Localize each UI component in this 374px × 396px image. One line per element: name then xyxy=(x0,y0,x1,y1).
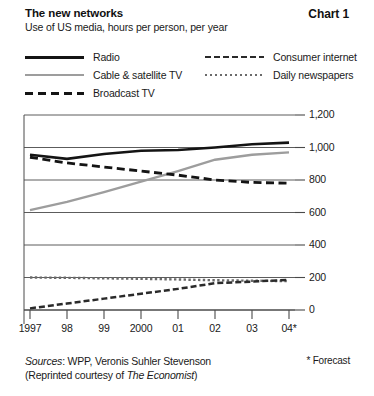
line-dashed-medium-icon xyxy=(205,51,264,63)
reprint-prefix: (Reprinted courtesy of xyxy=(25,369,127,381)
legend-item-broadcast-tv: Broadcast TV xyxy=(25,85,182,101)
y-axis-tick-label: 600 xyxy=(309,206,326,218)
chart-footer: Sources: WPP, Veronis Suhler Stevenson (… xyxy=(25,355,350,382)
legend-item-consumer-internet: Consumer internet xyxy=(205,49,357,65)
chart-figure: The new networks Use of US media, hours … xyxy=(0,0,374,396)
series-line-consumer-internet xyxy=(30,280,289,308)
legend-label-cable-satellite-tv: Cable & satellite TV xyxy=(93,69,182,81)
chart-subtitle: Use of US media, hours per person, per y… xyxy=(25,20,349,34)
chart-number-label: Chart 1 xyxy=(308,7,349,21)
y-axis-tick-label: 1,200 xyxy=(309,108,334,120)
chart-header: The new networks Use of US media, hours … xyxy=(25,6,349,34)
chart-legend: Radio Cable & satellite TV Broadcast TV … xyxy=(25,49,355,97)
series-line-radio xyxy=(30,143,289,159)
legend-column-left: Radio Cable & satellite TV Broadcast TV xyxy=(25,49,182,103)
series-line-broadcast-tv xyxy=(30,157,289,183)
reprint-line: (Reprinted courtesy of The Economist) xyxy=(25,369,350,383)
series-group xyxy=(30,143,289,309)
chart-plot-area: 02004006008001,0001,200 1997989920000102… xyxy=(0,104,374,349)
chart-title: The new networks xyxy=(25,6,349,20)
x-axis-tick-label: 04* xyxy=(267,322,311,334)
x-tick-marks-group xyxy=(30,310,289,319)
legend-item-radio: Radio xyxy=(25,49,182,65)
sources-line: Sources: WPP, Veronis Suhler Stevenson xyxy=(25,355,350,369)
legend-label-consumer-internet: Consumer internet xyxy=(273,51,357,63)
y-axis-tick-label: 1,000 xyxy=(309,141,334,153)
line-solid-bold-icon xyxy=(25,51,84,63)
legend-label-daily-newspapers: Daily newspapers xyxy=(273,69,353,81)
sources-text: : WPP, Veronis Suhler Stevenson xyxy=(62,355,211,367)
legend-label-radio: Radio xyxy=(93,51,120,63)
forecast-note: * Forecast xyxy=(306,355,350,366)
legend-column-right: Consumer internet Daily newspapers xyxy=(205,49,357,85)
reprint-suffix: ) xyxy=(194,369,197,381)
line-dotted-icon xyxy=(205,69,264,81)
sources-prefix: Sources xyxy=(25,355,62,367)
line-dashed-bold-icon xyxy=(25,87,84,99)
y-axis-tick-label: 200 xyxy=(309,271,326,283)
legend-label-broadcast-tv: Broadcast TV xyxy=(93,87,155,99)
reprint-publication: The Economist xyxy=(127,369,194,381)
legend-item-cable-satellite-tv: Cable & satellite TV xyxy=(25,67,182,83)
y-axis-tick-label: 400 xyxy=(309,238,326,250)
y-axis-tick-label: 800 xyxy=(309,173,326,185)
legend-item-daily-newspapers: Daily newspapers xyxy=(205,67,357,83)
y-axis-tick-label: 0 xyxy=(309,303,315,315)
series-line-cable-satellite-tv xyxy=(30,152,289,210)
line-solid-gray-icon xyxy=(25,69,84,81)
gridlines-group xyxy=(24,115,305,324)
